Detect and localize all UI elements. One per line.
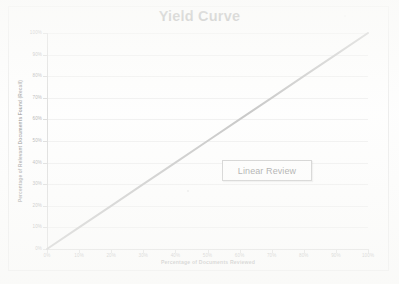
gridline-horizontal [47,227,368,228]
y-axis-tick [43,33,47,34]
y-axis-tick [43,141,47,142]
gridline-horizontal [47,55,368,56]
x-axis-tick-label: 0% [34,253,60,258]
x-axis-tick-label: 60% [227,253,253,258]
y-axis-tick-label: 40% [10,160,42,165]
y-axis-tick [43,76,47,77]
x-axis-tick-label: 70% [259,253,285,258]
y-axis-tick [43,227,47,228]
scan-speckle-icon [344,15,346,17]
annotation-linear-review-label: Linear Review [238,166,296,176]
gridline-horizontal [47,163,368,164]
y-axis-tick [43,98,47,99]
gridline-horizontal [47,119,368,120]
y-axis-tick [43,206,47,207]
y-axis-tick-label: 90% [10,52,42,57]
x-axis-tick-label: 10% [66,253,92,258]
y-axis-line [47,33,48,250]
y-axis-tick [43,119,47,120]
plot-area [47,33,368,249]
gridline-horizontal [47,33,368,34]
gridline-horizontal [47,141,368,142]
y-axis-tick-label: 30% [10,181,42,186]
scan-speckle-icon [187,190,189,192]
gridline-horizontal [47,98,368,99]
gridline-horizontal [47,206,368,207]
y-axis-tick [43,184,47,185]
x-axis-title: Percentage of Documents Reviewed [47,259,369,265]
y-axis-tick-label: 70% [10,95,42,100]
x-axis-tick-label: 100% [355,253,381,258]
x-axis-tick-label: 80% [291,253,317,258]
x-axis-tick-label: 40% [162,253,188,258]
y-axis-tick-label: 0% [10,246,42,251]
gridline-horizontal [47,184,368,185]
x-axis-tick-label: 20% [98,253,124,258]
y-axis-tick-label: 60% [10,116,42,121]
y-axis-tick [43,55,47,56]
y-axis-tick-label: 100% [10,30,42,35]
chart-title: Yield Curve [0,8,399,24]
annotation-linear-review: Linear Review [222,160,312,181]
scanned-page: Yield Curve Percentage of Relevant Docum… [0,0,399,284]
x-axis-tick-label: 90% [323,253,349,258]
y-axis-tick-label: 50% [10,138,42,143]
y-axis-tick-label: 10% [10,224,42,229]
x-axis-tick-label: 50% [195,253,221,258]
y-axis-tick [43,163,47,164]
x-axis-tick-label: 30% [130,253,156,258]
y-axis-tick-label: 80% [10,73,42,78]
gridline-horizontal [47,76,368,77]
y-axis-tick-label: 20% [10,203,42,208]
